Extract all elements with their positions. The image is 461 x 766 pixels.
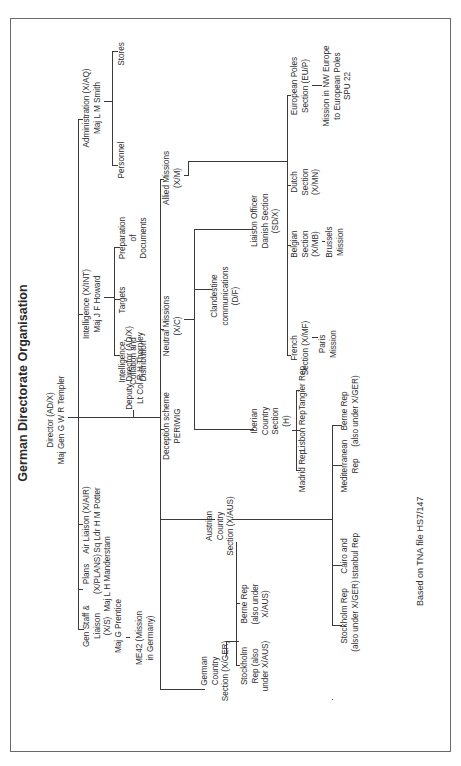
clandestine-node: Clandestinecommunications(D/F) [210, 266, 242, 325]
stockholm-rep-b-node: Stockholm Rep(also under X/GER) [340, 580, 361, 651]
stockholm-rep-a-node: StockholmRep (alsounder X/AUS) [240, 641, 272, 692]
allied-missions-node: Allied Missions(X/M) [162, 151, 183, 205]
node-label-line: Sq Ldr H M Potter [93, 486, 104, 553]
node-label-line: (H) [282, 407, 293, 436]
node-label-line: Maj L M Smith [93, 68, 104, 147]
connector [312, 85, 322, 86]
lisbon-node: Lisbon Rep [298, 410, 309, 451]
node-label-line: Dutch [290, 168, 301, 195]
connector [188, 161, 288, 162]
preparation-node: PreparationofDocuments [118, 217, 150, 259]
connector [160, 180, 161, 690]
node-label-line: Clandestine [210, 266, 221, 325]
connector [133, 410, 134, 418]
austrian-country-node: AustrianCountrySection (X/AUS) [205, 496, 237, 556]
node-label-line: German [200, 641, 211, 702]
connector [194, 290, 195, 430]
director-node: Director (AD/X)Maj Gen G W R Templer [46, 375, 67, 464]
node-label-line: Belgian [290, 230, 301, 257]
berne-rep-a-node: Berne Rep(also underX/AUS) [240, 584, 272, 625]
connector [194, 230, 195, 290]
node-label-line: to European Poles [333, 46, 344, 127]
node-label-line: under X/AUS) [261, 641, 272, 692]
intelligence-node: Intelligence (X/INT)Maj J F Howard [82, 269, 103, 339]
european-poles-node: European PolesSection (EU/P) [290, 57, 311, 115]
connector [226, 642, 227, 656]
connector [68, 417, 78, 418]
node-label-line: Madrid Rep [298, 450, 309, 492]
dutch-node: DutchSection(X/MN) [290, 168, 322, 195]
node-label-line: Lisbon Rep [298, 410, 309, 451]
node-label-line: Liaison Officer [250, 193, 261, 248]
node-label-line: Country [216, 496, 227, 556]
node-label-line: Berne Rep [240, 584, 251, 625]
node-label-line: Maj L H Manderstam [103, 536, 114, 612]
french-node: FrenchSection (X/MF) [290, 321, 311, 376]
connector [112, 52, 113, 166]
node-label-line: communications [221, 266, 232, 325]
connector [114, 248, 115, 356]
brussels-node: BrusselsMission [325, 226, 346, 257]
berne-rep-b-node: Berne Rep(also under X/GER) [340, 375, 361, 446]
node-label-line: X/AUS) [261, 584, 272, 625]
mediterranean-node: MediterraneanRep [340, 440, 361, 493]
node-label-line: Deception scheme [162, 392, 173, 460]
node-label-line: Lt Col R H Thornley [136, 326, 147, 410]
chart-title: German Directorate Organisation [16, 0, 30, 766]
connector [78, 417, 160, 418]
node-label-line: Director (AD/X) [46, 375, 57, 464]
node-label-line: Country [261, 407, 272, 436]
neutral-missions-node: Neutral Missions(X/C) [162, 296, 183, 357]
connector [244, 519, 332, 520]
connector [188, 175, 189, 176]
node-label-line: Stockholm Rep [340, 580, 351, 651]
node-label-line: Section [271, 407, 282, 436]
node-label-line: Austrian [205, 496, 216, 556]
connector [287, 96, 288, 356]
connector [332, 699, 333, 700]
node-label-line: Section (X/MF) [301, 321, 312, 376]
node-label-line: Stockholm [240, 641, 251, 692]
node-label-line: (D/F) [231, 266, 242, 325]
node-label-line: Rep [351, 440, 362, 493]
node-label-line: Section [301, 230, 312, 257]
node-label-line: Intelligence (X/INT) [82, 269, 93, 339]
node-label-line: (SD/X) [271, 193, 282, 248]
connector [236, 642, 237, 666]
liaison-danish-node: Liaison OfficerDanish Section(SD/X) [250, 193, 282, 248]
connector [232, 519, 244, 520]
node-label-line: in Germany) [146, 611, 157, 665]
belgian-node: BelgianSection(X/MB) [290, 230, 322, 257]
node-label-line: Allied Missions [162, 151, 173, 205]
node-label-line: Section (EU/P) [301, 57, 312, 115]
targets-node: Targets [118, 287, 129, 314]
node-label-line: Cairo and [340, 533, 351, 579]
air-liaison-node: Air Liaison (X/AIR)Sq Ldr H M Potter [82, 486, 103, 553]
node-label-line: Administration (X/AQ) [82, 68, 93, 147]
connector [104, 297, 114, 298]
deception-node: Deception schemePERIWIG [162, 392, 183, 460]
node-label-line: Deputy Director (AD/X) [125, 326, 136, 410]
node-label-line: Documents [139, 217, 150, 259]
connector [184, 319, 194, 320]
node-label-line: Stores [117, 42, 128, 66]
node-label-line: PERIWIG [173, 392, 184, 460]
connector [332, 426, 333, 626]
node-label-line: Mission [329, 330, 340, 358]
node-label-line: (also under [251, 584, 262, 625]
node-label-line: Preparation [118, 217, 129, 259]
connector [78, 120, 79, 630]
node-label-line: Mediterranean [340, 440, 351, 493]
node-label-line: Section [301, 168, 312, 195]
node-label-line: Country [211, 641, 222, 702]
node-label-line: Mission [336, 226, 347, 257]
node-label-line: Paris [318, 330, 329, 358]
node-label-line: SPU 22 [343, 46, 354, 127]
madrid-node: Madrid Rep [298, 450, 309, 492]
node-label-line: Maj G Prentice [114, 599, 125, 653]
stores-node: Stores [117, 42, 128, 66]
org-chart-canvas: German Directorate Organisation Director… [0, 0, 461, 766]
node-label-line: Iberian [250, 407, 261, 436]
node-label-line: (X/MB) [311, 230, 322, 257]
node-label-line: (also under X/GER) [351, 375, 362, 446]
